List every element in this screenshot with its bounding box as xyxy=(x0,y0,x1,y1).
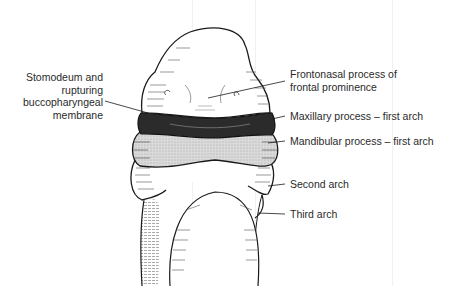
label-stomodeum-line2: rupturing xyxy=(23,84,103,97)
frontonasal-prominence-shape xyxy=(142,28,270,118)
label-maxillary: Maxillary process – first arch xyxy=(290,110,423,123)
lower-midline-bulge xyxy=(170,192,259,286)
label-second-arch: Second arch xyxy=(290,178,349,191)
label-stomodeum-line1: Stomodeum and xyxy=(23,71,103,84)
label-frontonasal-line1: Frontonasal process of xyxy=(290,68,397,81)
leader-line-third-arch xyxy=(258,213,285,214)
diagram-canvas: Stomodeum and rupturing buccopharyngeal … xyxy=(0,0,452,286)
label-frontonasal: Frontonasal process of frontal prominenc… xyxy=(290,68,397,93)
label-stomodeum: Stomodeum and rupturing buccopharyngeal … xyxy=(23,71,103,121)
label-stomodeum-line3: buccopharyngeal xyxy=(23,96,103,109)
label-frontonasal-line2: frontal prominence xyxy=(290,81,397,94)
label-mandibular: Mandibular process – first arch xyxy=(290,135,434,148)
label-third-arch: Third arch xyxy=(290,208,337,221)
label-stomodeum-line4: membrane xyxy=(23,109,103,122)
